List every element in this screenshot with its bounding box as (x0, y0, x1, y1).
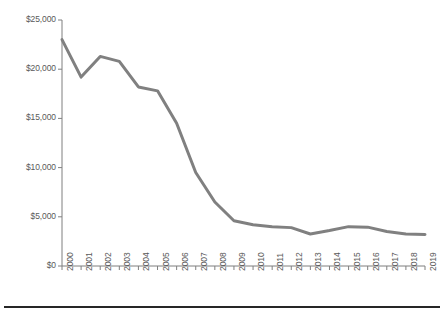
chart-figure: $0$5,000$10,000$15,000$20,000$25,000 200… (0, 0, 444, 317)
x-axis-tick-label: 2010 (257, 252, 266, 271)
x-axis-tick-label: 2002 (104, 252, 113, 271)
x-axis-tick-label: 2011 (276, 253, 285, 271)
bottom-horizontal-rule (4, 306, 440, 308)
x-axis-tick-label: 2018 (410, 252, 419, 271)
x-axis-tick-label: 2017 (391, 252, 400, 271)
x-axis-tick-label: 2003 (123, 252, 132, 271)
x-axis-tick-label: 2012 (295, 252, 304, 271)
x-axis-tick-label: 2004 (142, 252, 151, 271)
x-axis-tick-label: 2001 (85, 252, 94, 271)
x-axis-tick-label: 2006 (181, 252, 190, 271)
x-axis-tick-label: 2005 (162, 252, 171, 271)
x-axis-tick-label: 2009 (238, 252, 247, 271)
x-axis-tick-label: 2013 (314, 252, 323, 271)
x-axis-labels: 2000200120022003200420052006200720082009… (0, 0, 444, 317)
x-axis-tick-label: 2007 (200, 252, 209, 271)
x-axis-tick-label: 2016 (372, 252, 381, 271)
x-axis-tick-label: 2014 (333, 252, 342, 271)
x-axis-tick-label: 2000 (66, 252, 75, 271)
x-axis-tick-label: 2008 (219, 252, 228, 271)
x-axis-tick-label: 2015 (353, 252, 362, 271)
x-axis-tick-label: 2019 (429, 252, 438, 271)
